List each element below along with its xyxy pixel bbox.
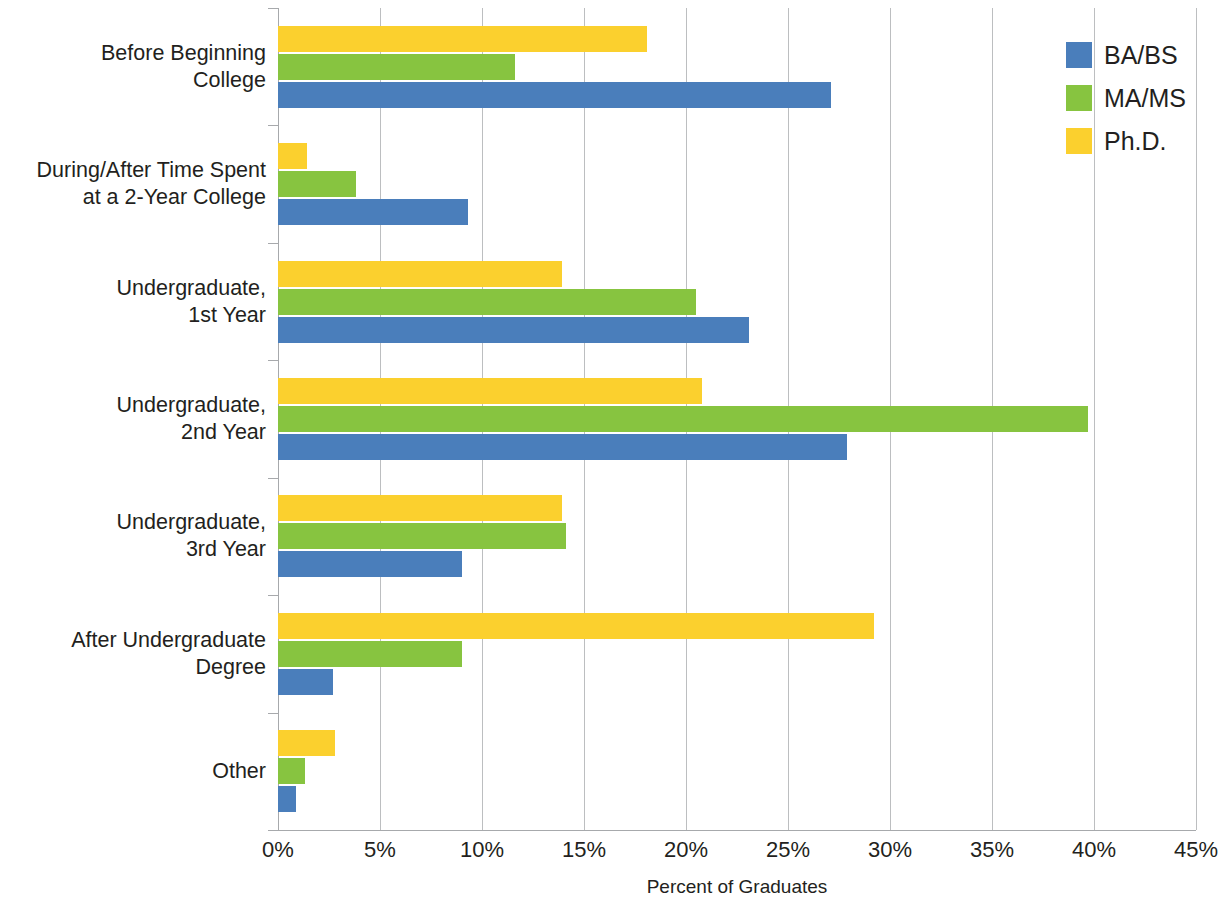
bar	[278, 434, 847, 460]
bar	[278, 786, 296, 812]
y-axis-tick	[268, 125, 278, 126]
bar	[278, 758, 305, 784]
bar	[278, 143, 307, 169]
bar-group	[278, 713, 1196, 830]
bar	[278, 378, 702, 404]
legend-swatch-icon	[1066, 85, 1092, 111]
x-axis-tick-label: 40%	[1072, 836, 1116, 864]
x-axis-tick-label: 35%	[970, 836, 1014, 864]
gridline	[1196, 8, 1197, 830]
bar	[278, 261, 562, 287]
bar	[278, 317, 749, 343]
y-axis-tick	[268, 360, 278, 361]
legend-item: MA/MS	[1066, 85, 1186, 111]
y-axis-category-label: Undergraduate, 1st Year	[10, 275, 278, 329]
y-axis-tick	[268, 713, 278, 714]
bar	[278, 26, 647, 52]
bar-chart: Before Beginning CollegeDuring/After Tim…	[0, 0, 1223, 911]
x-axis-line	[278, 830, 1196, 831]
y-axis-tick	[268, 830, 278, 831]
bar	[278, 523, 566, 549]
bar	[278, 406, 1088, 432]
legend-label: MA/MS	[1104, 85, 1186, 111]
bar	[278, 551, 462, 577]
legend-swatch-icon	[1066, 42, 1092, 68]
x-axis-tick-label: 0%	[262, 836, 294, 864]
legend-item: BA/BS	[1066, 42, 1186, 68]
x-axis-tick-label: 10%	[460, 836, 504, 864]
bar	[278, 730, 335, 756]
y-axis-tick	[268, 478, 278, 479]
bar	[278, 495, 562, 521]
y-axis-category-label: Undergraduate, 2nd Year	[10, 392, 278, 446]
y-axis-category-label: Before Beginning College	[10, 40, 278, 94]
x-axis-tick-label: 30%	[868, 836, 912, 864]
bar	[278, 641, 462, 667]
bar	[278, 289, 696, 315]
x-axis-tick-label: 20%	[664, 836, 708, 864]
bar-group	[278, 8, 1196, 125]
legend-label: BA/BS	[1104, 42, 1178, 68]
bar-group	[278, 360, 1196, 477]
x-axis-tick-label: 45%	[1174, 836, 1218, 864]
x-axis-tick-labels: 0%5%10%15%20%25%30%35%40%45%	[278, 836, 1196, 868]
bar	[278, 82, 831, 108]
legend-item: Ph.D.	[1066, 128, 1186, 154]
y-axis-category-label: After Undergraduate Degree	[10, 627, 278, 681]
y-axis-category-label: Other	[10, 758, 278, 785]
bar	[278, 613, 874, 639]
x-axis-tick-label: 25%	[766, 836, 810, 864]
bar-group	[278, 595, 1196, 712]
y-axis-category-label: Undergraduate, 3rd Year	[10, 509, 278, 563]
bar-group	[278, 125, 1196, 242]
bar	[278, 199, 468, 225]
x-axis-title: Percent of Graduates	[278, 876, 1196, 898]
bar	[278, 669, 333, 695]
y-axis-tick	[268, 595, 278, 596]
bar	[278, 54, 515, 80]
x-axis-tick-label: 15%	[562, 836, 606, 864]
bar-group	[278, 478, 1196, 595]
y-axis-tick	[268, 8, 278, 9]
bar-group	[278, 243, 1196, 360]
plot-area	[278, 8, 1196, 830]
y-axis: Before Beginning CollegeDuring/After Tim…	[0, 8, 278, 830]
legend-label: Ph.D.	[1104, 128, 1167, 154]
bar	[278, 171, 356, 197]
legend: BA/BSMA/MSPh.D.	[1066, 42, 1186, 154]
legend-swatch-icon	[1066, 128, 1092, 154]
y-axis-category-label: During/After Time Spent at a 2-Year Coll…	[10, 157, 278, 211]
y-axis-tick	[268, 243, 278, 244]
x-axis-tick-label: 5%	[364, 836, 396, 864]
